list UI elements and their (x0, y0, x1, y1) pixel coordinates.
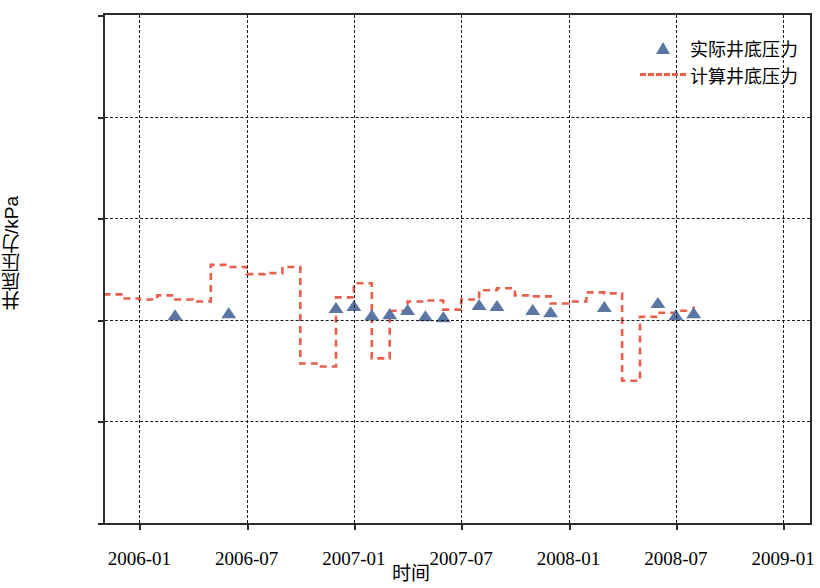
x-gridline (783, 15, 784, 523)
actual-pressure-marker (597, 301, 612, 312)
legend-label-calculated: 计算井底压力 (690, 62, 798, 88)
x-tick-label: 2006-01 (108, 548, 171, 570)
actual-pressure-marker (543, 306, 558, 317)
chart-legend: 实际井底压力 计算井底压力 (636, 34, 816, 88)
chart-figure: 010 00020 00030 00040 00050 0002006-0120… (0, 0, 820, 588)
x-gridline (569, 15, 570, 523)
x-axis-tick (461, 523, 463, 530)
legend-item-actual: 实际井底压力 (636, 34, 816, 61)
x-tick-label: 2008-07 (644, 548, 707, 570)
x-gridline (354, 15, 355, 523)
actual-pressure-marker (650, 297, 665, 308)
y-axis-label: 井底压力/kPa (0, 196, 25, 310)
legend-label-actual: 实际井底压力 (690, 35, 798, 61)
y-axis-tick (98, 218, 105, 220)
dashed-line-icon (636, 73, 690, 76)
x-axis-tick (247, 523, 249, 530)
y-axis-tick (98, 421, 105, 423)
actual-pressure-marker (525, 304, 540, 315)
y-gridline (105, 320, 810, 321)
x-gridline (461, 15, 462, 523)
x-gridline (676, 15, 677, 523)
y-axis-tick (98, 15, 105, 17)
actual-pressure-marker (329, 302, 344, 313)
x-axis-tick (139, 523, 141, 530)
plot-area: 010 00020 00030 00040 00050 0002006-0120… (103, 13, 812, 525)
x-gridline (247, 15, 248, 523)
y-gridline (105, 117, 810, 118)
x-tick-label: 2007-07 (430, 548, 493, 570)
x-axis-tick (354, 523, 356, 530)
triangle-marker-icon (636, 42, 690, 54)
actual-pressure-marker (686, 307, 701, 318)
calculated-pressure-line (105, 265, 694, 381)
x-axis-tick (676, 523, 678, 530)
y-gridline (105, 218, 810, 219)
actual-pressure-marker (364, 309, 379, 320)
x-axis-tick (569, 523, 571, 530)
x-tick-label: 2008-01 (537, 548, 600, 570)
actual-pressure-marker (221, 307, 236, 318)
x-axis-tick (783, 523, 785, 530)
x-tick-label: 2007-01 (322, 548, 385, 570)
x-gridline (139, 15, 140, 523)
x-tick-label: 2006-07 (215, 548, 278, 570)
actual-pressure-marker (168, 309, 183, 320)
actual-pressure-marker (490, 300, 505, 311)
x-axis-label: 时间 (392, 558, 430, 585)
data-canvas (105, 15, 810, 523)
x-tick-label: 2009-01 (751, 548, 814, 570)
legend-item-calculated: 计算井底压力 (636, 61, 816, 88)
y-axis-tick (98, 117, 105, 119)
y-axis-tick (98, 320, 105, 322)
y-gridline (105, 421, 810, 422)
y-axis-tick (98, 523, 105, 525)
